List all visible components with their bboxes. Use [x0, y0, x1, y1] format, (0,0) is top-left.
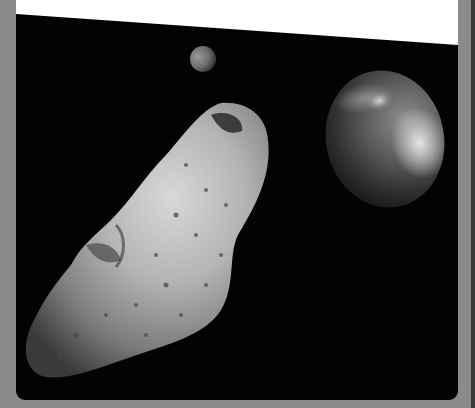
space-photo [16, 0, 458, 400]
frame-right-edge [471, 0, 475, 408]
asteroid [16, 95, 316, 395]
